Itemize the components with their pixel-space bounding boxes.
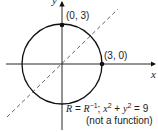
caption-note: (not a function) (86, 115, 153, 126)
relation-diagram: (0, 3) (3, 0) x y R = R−1; x2 + y2 = 9 (… (0, 0, 158, 132)
caption-equation: R = R−1; x2 + y2 = 9 (65, 102, 149, 114)
x-axis-label: x (150, 68, 156, 80)
point-label-0-3: (0, 3) (66, 10, 89, 21)
y-axis-label: y (51, 0, 57, 6)
point-label-3-0: (3, 0) (104, 50, 127, 61)
point-0-3 (60, 23, 65, 28)
point-3-0 (100, 62, 105, 67)
